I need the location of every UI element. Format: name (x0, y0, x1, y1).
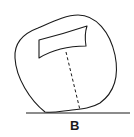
dashed-center-line (66, 52, 80, 110)
inner-window-outline (39, 26, 87, 58)
diagram-canvas (0, 0, 134, 137)
diagram-label: B (70, 119, 79, 132)
outer-body-outline (15, 15, 117, 112)
